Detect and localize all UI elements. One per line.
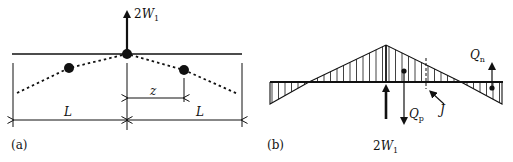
j-label: J: [437, 103, 446, 117]
panel-a-caption: (a): [11, 138, 28, 152]
dimension-L-left-label: L: [63, 105, 72, 119]
dimension-z-label: z: [149, 84, 157, 98]
qn-label: Qn: [470, 48, 485, 64]
qp-label: Qp: [409, 107, 424, 123]
panel-b: 2W1 Qp J Qn (b): [267, 45, 503, 155]
diagram-canvas: 2W1 z L L (a) 2W1 Qp: [0, 0, 513, 162]
dimension-L-right-label: L: [195, 105, 204, 119]
panel-a: 2W1 z L L (a): [11, 7, 242, 152]
force-label-b: 2W1: [373, 139, 398, 155]
node-left: [64, 63, 74, 73]
node-right: [179, 65, 189, 75]
panel-b-caption: (b): [267, 138, 284, 152]
force-label-a: 2W1: [134, 7, 159, 23]
